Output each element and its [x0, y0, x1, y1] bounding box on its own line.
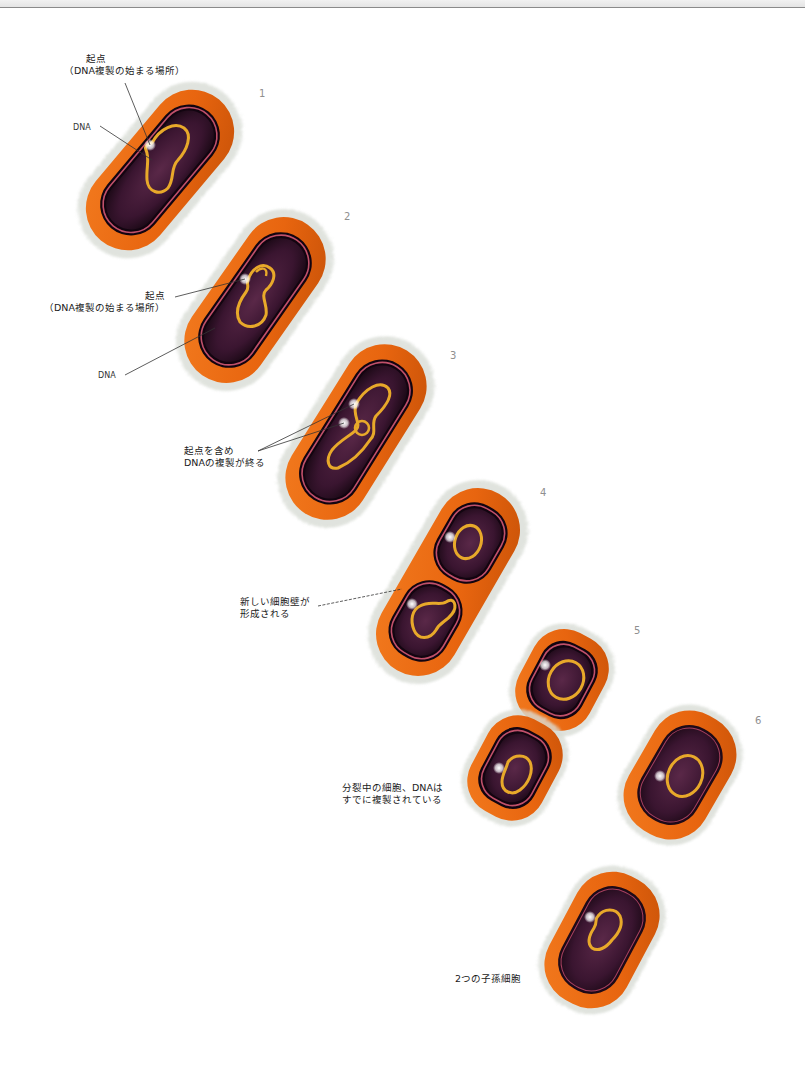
binary-fission-diagram: 起点 （DNA複製の始まる場所） DNA 1 起点 （DNA複製の始まる場所） …	[0, 0, 805, 1077]
cell-step-4	[350, 462, 547, 703]
cell-step-2	[157, 189, 354, 410]
step-number-6: 6	[755, 715, 761, 726]
step-number-2: 2	[344, 211, 350, 222]
cell-step-6-bottom	[522, 849, 682, 1030]
label-dna-1: DNA	[73, 122, 91, 134]
step-number-3: 3	[450, 350, 456, 361]
label-dna-2: DNA	[98, 370, 116, 382]
step-number-4: 4	[540, 487, 546, 498]
origin-dot-4a	[444, 531, 456, 543]
origin-dot-4b	[406, 598, 418, 610]
step-number-5: 5	[634, 625, 640, 636]
label-origin-note-2: （DNA複製の始まる場所）	[44, 302, 165, 314]
step-number-1: 1	[259, 88, 265, 99]
label-dividing-line2: すでに複製されている	[342, 794, 442, 806]
origin-dot-5a	[539, 659, 551, 671]
label-replication-done-line1: 起点を含め	[184, 445, 234, 457]
label-origin-2: 起点	[145, 290, 165, 302]
label-origin-note-1: （DNA複製の始まる場所）	[64, 65, 185, 77]
label-daughter-cells: 2つの子孫細胞	[455, 973, 521, 985]
origin-dot-6b	[584, 911, 596, 923]
diagram-illustration	[0, 0, 805, 1077]
label-new-wall-line1: 新しい細胞壁が	[240, 596, 310, 608]
cell-step-6-top	[601, 688, 760, 863]
origin-dot-5b	[493, 762, 505, 774]
label-new-wall-line2: 形成される	[240, 608, 290, 620]
origin-dot-6a	[654, 770, 666, 782]
label-origin-1: 起点	[86, 53, 106, 65]
label-replication-done-line2: DNAの複製が終る	[184, 457, 265, 469]
label-dividing-line1: 分裂中の細胞、DNAは	[342, 782, 443, 794]
